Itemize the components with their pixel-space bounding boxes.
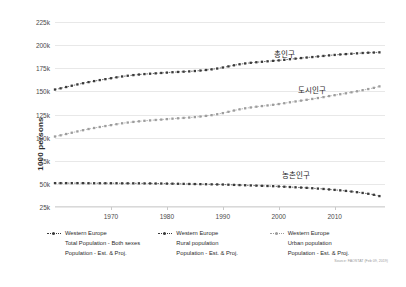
y-tick-label: 175k	[36, 65, 50, 72]
data-point	[54, 182, 56, 184]
data-point	[272, 104, 274, 106]
data-point	[356, 52, 358, 54]
data-point	[82, 82, 84, 84]
data-point	[250, 106, 252, 108]
data-point	[339, 53, 341, 55]
data-point	[345, 92, 347, 94]
data-point	[250, 62, 252, 64]
y-tick-label: 225k	[36, 19, 50, 26]
data-point	[367, 88, 369, 90]
data-point	[356, 191, 358, 193]
legend-entry[interactable]: Western EuropeUrban populationPopulation…	[270, 228, 367, 258]
data-point	[272, 60, 274, 62]
data-point	[82, 129, 84, 131]
data-point	[87, 81, 89, 83]
data-point	[65, 182, 67, 184]
data-point	[127, 182, 129, 184]
data-point	[317, 187, 319, 189]
data-point	[233, 109, 235, 111]
data-point	[155, 72, 157, 74]
y-tick-label: 100k	[36, 134, 50, 141]
series-annotation: 도시인구	[298, 84, 326, 95]
population-line-chart: 1000 persons 225k200k175k150k125k100k75k…	[0, 0, 406, 287]
data-point	[373, 87, 375, 89]
data-point	[54, 135, 56, 137]
data-point	[188, 116, 190, 118]
data-point	[188, 183, 190, 185]
data-point	[345, 53, 347, 55]
legend-entry[interactable]: Western EuropeTotal Population - Both se…	[47, 228, 144, 258]
legend-marker-icon	[47, 230, 61, 237]
series-annotation: 총인구	[274, 48, 295, 59]
legend-label-line: Population - Est. & Proj.	[65, 248, 140, 258]
data-point	[317, 55, 319, 57]
data-point	[160, 182, 162, 184]
data-point	[110, 77, 112, 79]
x-tick-label: 2010	[327, 213, 341, 220]
data-point	[289, 186, 291, 188]
series-annotation: 농촌인구	[282, 169, 310, 180]
series-lines	[55, 22, 385, 207]
data-point	[283, 59, 285, 61]
x-tick-mark	[279, 207, 280, 210]
series-line	[55, 86, 379, 136]
y-tick-label: 25k	[40, 204, 50, 211]
data-point	[227, 65, 229, 67]
legend-marker-icon	[270, 230, 284, 237]
data-point	[244, 107, 246, 109]
data-point	[339, 189, 341, 191]
data-point	[266, 185, 268, 187]
data-point	[328, 95, 330, 97]
data-point	[199, 69, 201, 71]
legend: Western EuropeTotal Population - Both se…	[47, 228, 367, 258]
series-line	[55, 52, 379, 89]
data-point	[171, 183, 173, 185]
data-point	[255, 106, 257, 108]
data-point	[300, 99, 302, 101]
x-tick-mark	[111, 207, 112, 210]
data-point	[71, 85, 73, 87]
data-point	[59, 182, 61, 184]
legend-label-line: Western Europe	[288, 228, 350, 238]
data-point	[210, 183, 212, 185]
data-point	[59, 87, 61, 89]
data-point	[334, 189, 336, 191]
data-point	[160, 72, 162, 74]
legend-label-line: Rural population	[176, 238, 238, 248]
data-point	[334, 54, 336, 56]
x-tick-mark	[167, 207, 168, 210]
data-point	[143, 182, 145, 184]
data-point	[261, 61, 263, 63]
data-point	[205, 183, 207, 185]
data-point	[93, 127, 95, 129]
data-point	[227, 111, 229, 113]
data-point	[132, 74, 134, 76]
data-point	[278, 59, 280, 61]
legend-entry[interactable]: Western EuropeRural populationPopulation…	[158, 228, 255, 258]
data-point	[339, 93, 341, 95]
data-point	[289, 101, 291, 103]
data-point	[143, 73, 145, 75]
data-point	[188, 70, 190, 72]
data-point	[328, 54, 330, 56]
data-point	[238, 108, 240, 110]
data-point	[373, 51, 375, 53]
data-point	[238, 184, 240, 186]
data-point	[76, 182, 78, 184]
data-point	[115, 182, 117, 184]
legend-label: Western EuropeTotal Population - Both se…	[65, 228, 140, 258]
data-point	[132, 182, 134, 184]
data-point	[227, 184, 229, 186]
data-point	[171, 71, 173, 73]
legend-label: Western EuropeUrban populationPopulation…	[288, 228, 350, 258]
plot-area: 225k200k175k150k125k100k75k50k25k 197019…	[55, 22, 385, 207]
data-point	[177, 117, 179, 119]
data-point	[121, 182, 123, 184]
data-point	[294, 186, 296, 188]
data-point	[155, 182, 157, 184]
data-point	[93, 182, 95, 184]
data-point	[149, 182, 151, 184]
data-point	[194, 70, 196, 72]
data-point	[65, 86, 67, 88]
data-point	[71, 132, 73, 134]
